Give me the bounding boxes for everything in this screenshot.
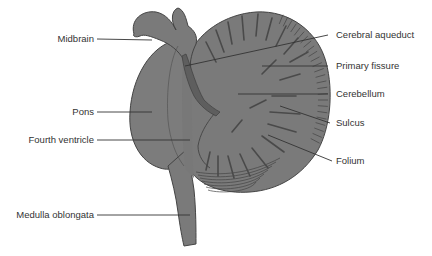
label-cerebellum: Cerebellum [336,88,385,99]
label-folium: Folium [336,155,365,166]
label-sulcus: Sulcus [336,117,365,128]
label-midbrain: Midbrain [20,33,94,44]
label-fourth-ventricle: Fourth ventricle [10,134,94,145]
brain-diagram: Midbrain Pons Fourth ventricle Medulla o… [0,0,432,256]
label-primary-fissure: Primary fissure [336,60,399,71]
leader-midbrain [97,39,152,40]
label-medulla-oblongata: Medulla oblongata [0,209,94,220]
label-pons: Pons [20,106,94,117]
label-cerebral-aqueduct: Cerebral aqueduct [336,29,414,40]
